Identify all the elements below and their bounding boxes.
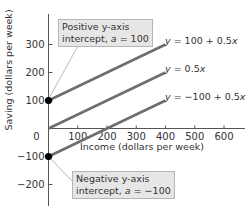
- x-tick-label: 600: [214, 131, 233, 142]
- callout-top-line2: intercept, a = 100: [62, 33, 149, 45]
- callout-bottom-line1: Negative y-axis: [76, 173, 171, 185]
- series-line-1: [49, 45, 166, 101]
- callout-bottom-text: intercept,: [76, 185, 125, 196]
- x-tick-label: 400: [156, 131, 175, 142]
- x-tick-label: 300: [127, 131, 146, 142]
- y-tick-label: 100: [25, 95, 44, 106]
- callout-top-text: intercept,: [62, 33, 111, 44]
- y-tick-label: 200: [25, 67, 44, 78]
- series-line-2: [49, 73, 166, 129]
- equation-label-2: y = 0.5x: [164, 63, 206, 74]
- equation-label-1: y = 100 + 0.5x: [164, 35, 238, 46]
- callout-top-value: = 100: [117, 33, 149, 44]
- x-axis-title: Income (dollars per week): [80, 141, 204, 152]
- callout-positive-intercept: Positive y-axis intercept, a = 100: [58, 19, 153, 47]
- intercept-point-2: [45, 153, 52, 160]
- callout-bottom-value: = −100: [131, 185, 171, 196]
- callout-top-line1: Positive y-axis: [62, 21, 149, 33]
- leader-line-bottom: [48, 156, 72, 181]
- y-tick-label: −200: [17, 179, 44, 190]
- y-tick-label: −100: [17, 151, 44, 162]
- x-tick-label: 500: [185, 131, 204, 142]
- callout-bottom-line2: intercept, a = −100: [76, 185, 171, 197]
- equation-label-3: y = −100 + 0.5x: [164, 91, 246, 102]
- y-tick-label: 300: [25, 39, 44, 50]
- tick-labels: 100200300400500600−200−1001002003000: [17, 39, 234, 190]
- intercept-point-1: [45, 97, 52, 104]
- origin-label: 0: [33, 131, 39, 142]
- callout-negative-intercept: Negative y-axis intercept, a = −100: [72, 171, 175, 199]
- callout-leaders: [48, 35, 84, 181]
- y-axis-title: Saving (dollars per week): [3, 9, 14, 130]
